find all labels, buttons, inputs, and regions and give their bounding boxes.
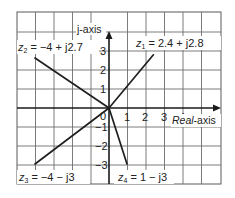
real-axis-label-suffix: -axis [194,114,216,126]
x-tick-2: 2 [142,111,148,123]
z1-label: z1 = 2.4 + j2.8 [135,37,204,50]
imaginary-axis-label: j-axis [76,23,102,35]
vector-z1 [109,55,153,108]
x-tick-1: 1 [124,111,130,123]
vector-z2 [35,58,109,108]
equation-labels: z1 = 2.4 + j2.8 z2 = −4 + j2.7 z3 = −4 −… [17,36,221,184]
y-tick-neg-1: −1 [95,121,108,133]
real-axis-label: Real-axis [172,114,216,126]
real-axis-arrow-icon [213,105,221,112]
y-tick-3: 3 [100,45,106,57]
vector-z3 [35,108,109,164]
x-tick-3: 3 [161,111,167,123]
y-tick-neg-2: −2 [95,140,108,152]
y-tick-neg-3: −3 [95,159,108,171]
y-tick-2: 2 [100,64,106,76]
z2-label: z2 = −4 + j2.7 [17,41,83,54]
y-tick-1: 1 [100,83,106,95]
complex-plane-diagram: 0 1 2 3 4 1 2 3 −1 −2 −3 j-axis Real-axi… [0,0,235,198]
real-axis-label-italic: Real [172,114,194,126]
